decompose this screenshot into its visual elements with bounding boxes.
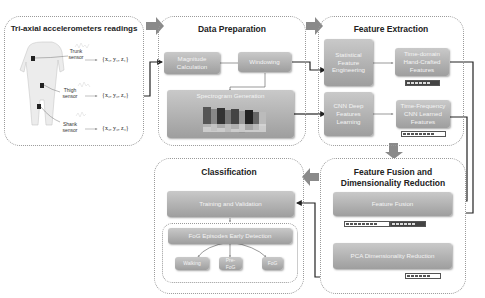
class-walking-box: Walking (175, 257, 209, 270)
pca-dimensionality-reduction-box: PCA Dimensionality Reduction (333, 243, 452, 269)
classification-title: Classification (155, 167, 303, 177)
time-domain-feature-vector (405, 80, 440, 86)
class-prefog-box: Pre-FoG (219, 257, 242, 270)
time-domain-features-box: Time-domain Hand-Crafted Features (395, 48, 449, 76)
statistical-feature-engineering-box: Statistical Feature Engineering (324, 39, 373, 86)
fog-detection-box: FoG Episodes Early Detection (168, 228, 292, 244)
reduced-feature-vector (405, 273, 441, 279)
fusion-title-line2: Dimensionality Reduction (321, 178, 465, 188)
fused-feature-vector-light (344, 221, 390, 227)
training-validation-box: Training and Validation (167, 191, 294, 217)
class-fog-box: FoG (262, 257, 283, 270)
fusion-title-line1: Feature Fusion and (321, 167, 465, 177)
feature-fusion-box: Feature Fusion (333, 192, 452, 216)
time-frequency-features-box: Time-Frequency CNN Learned Features (396, 100, 450, 128)
feature-extraction-title: Feature Extraction (319, 24, 463, 34)
cnn-deep-features-box: CNN Deep Features Learning (324, 92, 373, 136)
time-frequency-feature-vector (401, 131, 446, 137)
fused-feature-vector-dark (390, 221, 426, 227)
